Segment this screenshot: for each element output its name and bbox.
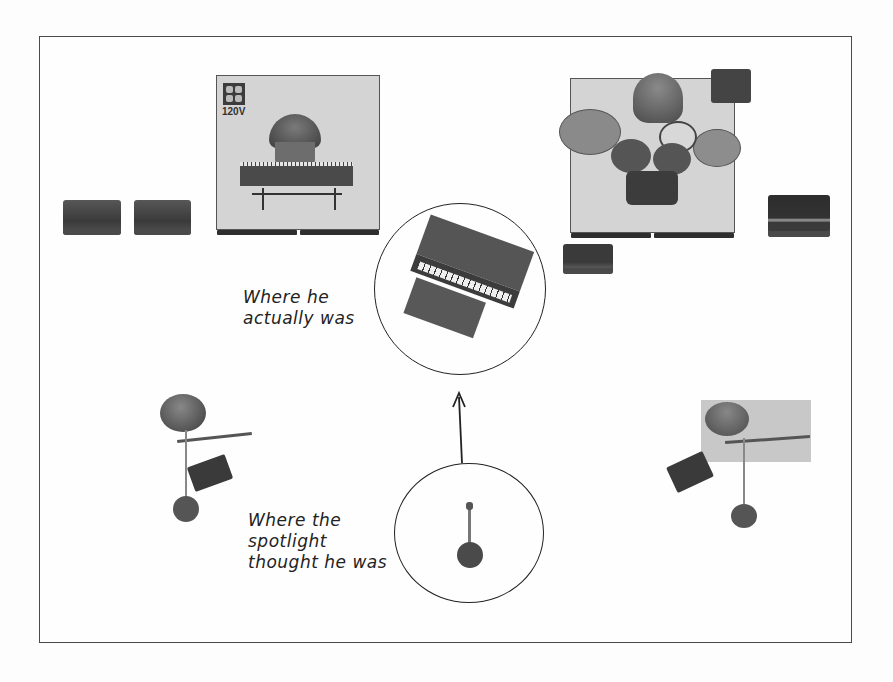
power-label: 120V: [222, 106, 245, 117]
annotation-spotlight: Where the spotlight thought he was: [248, 510, 387, 573]
keyboard-stand: [262, 188, 336, 210]
mic-stand: [743, 438, 745, 506]
stand-crossbar: [252, 193, 342, 195]
mic-base: [457, 542, 483, 568]
guitar-neck: [177, 432, 252, 443]
microphone-icon: [466, 502, 473, 510]
keyboard-instrument: [240, 166, 353, 186]
tom-left: [611, 139, 651, 173]
riser-legs: [217, 230, 379, 235]
mic-base: [731, 504, 757, 528]
mic-base: [173, 496, 199, 522]
drummer: [633, 73, 683, 123]
amplifier-right: [768, 195, 830, 237]
mic-stand: [185, 430, 187, 500]
outlet-icon: [223, 83, 245, 105]
monitor-box: [711, 69, 751, 103]
bass-drum: [626, 171, 678, 205]
annotation-actual: Where he actually was: [243, 287, 355, 329]
amplifier-left-2: [134, 200, 191, 235]
cymbal-left: [559, 109, 621, 155]
spotlight-position-circle: [394, 463, 544, 603]
drum-riser: [570, 78, 735, 233]
upright-piano: [394, 214, 534, 353]
mic-stand-icon: [468, 506, 471, 546]
cymbal-right: [693, 129, 741, 167]
guitarist-right: [665, 398, 815, 528]
amplifier-left-1: [63, 200, 121, 235]
riser-legs: [571, 233, 734, 238]
keyboard-riser: 120V: [216, 75, 380, 230]
actual-position-circle: [374, 203, 546, 375]
guitarist-left: [155, 390, 265, 520]
arrow-icon: [440, 385, 480, 465]
guitarist-body: [705, 402, 749, 436]
small-amplifier: [563, 244, 613, 274]
guitarist-body: [160, 394, 206, 432]
pedalboard: [187, 454, 233, 492]
